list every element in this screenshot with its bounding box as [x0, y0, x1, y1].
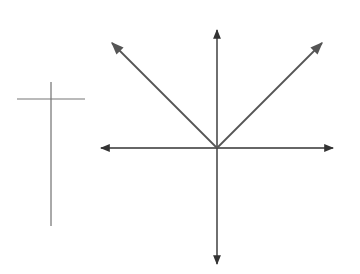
- value-table: [17, 82, 85, 226]
- curve-left-branch: [112, 43, 217, 148]
- absolute-value-figure: [0, 0, 360, 274]
- coordinate-graph: [101, 30, 333, 264]
- curve-right-branch: [217, 43, 322, 148]
